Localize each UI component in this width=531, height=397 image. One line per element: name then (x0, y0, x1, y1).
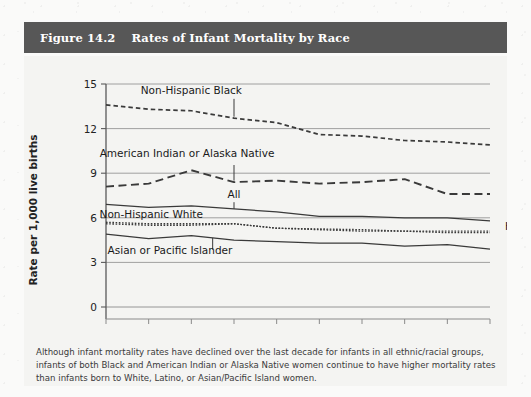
series-label: Non-Hispanic White (100, 208, 203, 220)
data-series-lines (106, 105, 490, 249)
gridlines (106, 84, 490, 307)
series-line (106, 170, 490, 194)
series-line (106, 105, 490, 145)
series-label: Hispanic (505, 220, 507, 232)
y-tick-label: 0 (90, 301, 97, 313)
series-label: Non-Hispanic Black (141, 84, 243, 96)
series-label: American Indian or Alaska Native (100, 147, 275, 159)
figure-root: Figure 14.2 Rates of Infant Mortality by… (0, 0, 531, 397)
caption-divider (24, 338, 507, 339)
y-axis-title-text: Rate per 1,000 live births (27, 134, 39, 285)
y-axis-tick-labels: 03691215 (84, 78, 106, 313)
figure-header-bar: Figure 14.2 Rates of Infant Mortality by… (24, 22, 507, 53)
y-axis-title: Rate per 1,000 live births (27, 134, 39, 285)
figure-title: Rates of Infant Mortality by Race (131, 31, 349, 45)
y-tick-label: 6 (90, 212, 97, 224)
series-line (106, 222, 490, 231)
axes (106, 84, 490, 319)
series-label: Asian or Pacific Islander (108, 244, 233, 256)
y-tick-label: 3 (90, 256, 97, 268)
series-leader-lines (213, 99, 234, 250)
figure-caption: Although infant mortality rates have dec… (36, 346, 496, 386)
figure-number: Figure 14.2 (40, 31, 115, 45)
chart-plot-area: 03691215 2005200620072008200920102011201… (24, 60, 507, 325)
y-tick-label: 15 (84, 78, 97, 90)
y-tick-label: 12 (84, 123, 97, 135)
y-tick-label: 9 (90, 167, 97, 179)
caption-text: Although infant mortality rates have dec… (36, 346, 496, 386)
x-axis-ticks (106, 319, 490, 324)
series-label: All (227, 188, 240, 200)
line-chart-svg: 03691215 2005200620072008200920102011201… (24, 60, 507, 325)
